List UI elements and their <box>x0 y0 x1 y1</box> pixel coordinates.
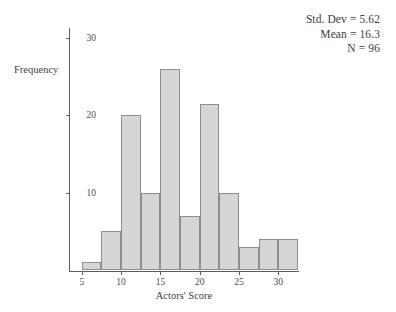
x-tick-mark <box>82 271 83 275</box>
x-tick-mark <box>278 271 279 275</box>
x-tick-label: 30 <box>263 277 293 288</box>
histogram-bar <box>82 262 102 270</box>
histogram-bar <box>239 247 259 270</box>
statistics-annotation: Std. Dev = 5.62 Mean = 16.3 N = 96 <box>306 12 380 56</box>
histogram-bar <box>160 69 180 270</box>
x-tick-mark <box>160 271 161 275</box>
x-axis-line <box>69 271 299 272</box>
x-tick-label: 15 <box>145 277 175 288</box>
x-tick-label: 10 <box>106 277 136 288</box>
n-text: N = 96 <box>306 41 380 56</box>
y-axis-title: Frequency <box>14 64 58 76</box>
bars-layer <box>70 30 298 270</box>
plot-area <box>70 30 298 270</box>
histogram-bar <box>121 115 141 270</box>
x-axis-title: Actors' Score <box>70 290 298 302</box>
histogram-bar <box>200 104 220 270</box>
histogram-bar <box>219 193 239 270</box>
histogram-bar <box>278 239 298 270</box>
histogram-bar <box>259 239 279 270</box>
x-tick-mark <box>121 271 122 275</box>
x-tick-label: 25 <box>224 277 254 288</box>
histogram-bar <box>180 216 200 270</box>
histogram-chart: Std. Dev = 5.62 Mean = 16.3 N = 96 Frequ… <box>0 0 396 312</box>
x-tick-mark <box>239 271 240 275</box>
mean-text: Mean = 16.3 <box>306 27 380 42</box>
x-tick-label: 20 <box>185 277 215 288</box>
x-tick-label: 5 <box>67 277 97 288</box>
histogram-bar <box>141 193 161 270</box>
std-dev-text: Std. Dev = 5.62 <box>306 12 380 27</box>
histogram-bar <box>101 231 121 270</box>
x-tick-mark <box>200 271 201 275</box>
